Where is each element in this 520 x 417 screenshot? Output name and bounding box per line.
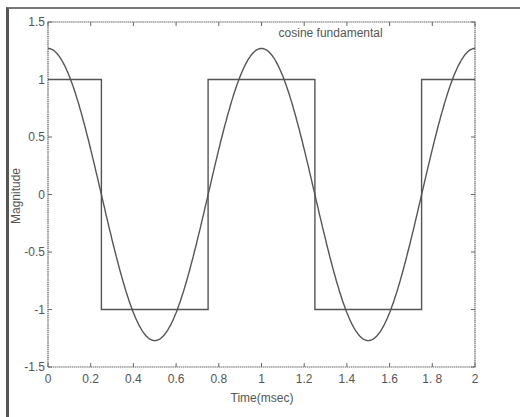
y-axis-ticks: 1.510.50-0.5-1-1.5 [24,15,475,374]
y-axis-label: Magnitude [9,168,23,224]
axes-box [48,22,475,367]
x-tick-label: 0.6 [168,372,185,386]
x-tick-label: 0 [45,372,52,386]
x-tick-label: 2 [472,372,479,386]
x-axis-label: Time(msec) [231,391,294,405]
x-tick-label: 0.4 [125,372,142,386]
x-tick-label: 0.2 [82,372,99,386]
x-tick-label: 1.2 [296,372,313,386]
x-tick-label: 1 [258,372,265,386]
y-tick-label: -0.5 [24,245,45,259]
x-tick-label: 0.8 [210,372,227,386]
x-tick-label: 1.4 [339,372,356,386]
cosine-fundamental-line [48,48,475,340]
y-tick-label: -1 [34,303,45,317]
y-tick-label: 1 [38,73,45,87]
x-axis-ticks: 00.20.40.60.811.21.41.61. 82 [45,22,479,386]
y-tick-label: 1.5 [28,15,45,29]
y-tick-label: 0.5 [28,130,45,144]
x-tick-label: 1.6 [381,372,398,386]
y-tick-label: -1.5 [24,360,45,374]
y-tick-label: 0 [38,188,45,202]
square-wave-line [48,80,475,310]
x-tick-label: 1. 8 [422,372,442,386]
axes-frame [48,22,475,367]
annotation-cosine-fundamental: cosine fundamental [279,26,383,40]
plot-series [48,48,475,340]
